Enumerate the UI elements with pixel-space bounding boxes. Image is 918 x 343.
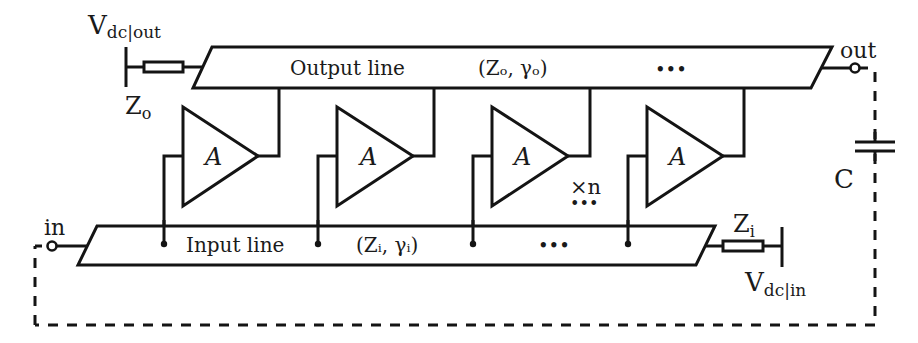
output-line-params: (Zₒ, γₒ) — [478, 56, 548, 80]
in-port-terminal — [48, 242, 57, 251]
z-out-resistor — [144, 62, 183, 72]
distributed-amplifier-diagram: Vdc|out Zo Output line (Zₒ, γₒ) ••• out … — [0, 0, 918, 343]
capacitor-label: C — [834, 164, 854, 194]
z-in-resistor — [723, 241, 763, 251]
amplifier-stage-1: A — [161, 88, 279, 247]
out-port-terminal — [851, 64, 860, 73]
out-port-label: out — [840, 38, 876, 63]
z-out-label: Zo — [125, 92, 151, 123]
amplifier-gain-label: A — [203, 143, 222, 171]
amplifier-gain-label: A — [512, 143, 531, 171]
output-line-ellipsis: ••• — [655, 59, 687, 80]
feedback-capacitor — [855, 132, 895, 161]
amplifier-stage-4: A — [625, 88, 744, 247]
input-line-ellipsis: ••• — [538, 235, 570, 256]
z-in-label: Zi — [733, 210, 755, 241]
amplifier-stage-3: A — [470, 88, 590, 247]
vdc-out-label: Vdc|out — [87, 10, 161, 42]
amplifier-gain-label: A — [358, 143, 377, 171]
amplifier-gain-label: A — [667, 143, 686, 171]
amplifier-stage-2: A — [315, 88, 434, 247]
input-line-params: (Zᵢ, γᵢ) — [356, 233, 418, 257]
output-line-label: Output line — [290, 56, 405, 80]
in-port-label: in — [44, 215, 65, 240]
input-line-label: Input line — [186, 233, 284, 257]
vdc-in-label: Vdc|in — [744, 267, 806, 300]
repeat-ellipsis: ••• — [570, 194, 598, 213]
vdc-out-bias — [126, 47, 203, 87]
